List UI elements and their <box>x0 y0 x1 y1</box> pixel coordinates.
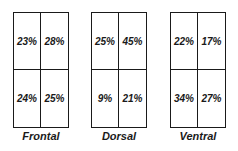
cell-bottom-left: 34% <box>171 70 198 127</box>
panel-frontal: 23% 28% 24% 25% <box>13 12 69 128</box>
cell-top-right: 28% <box>41 13 68 70</box>
cell-top-left: 22% <box>171 13 198 70</box>
panel-label-ventral: Ventral <box>163 130 233 142</box>
cell-top-right: 45% <box>119 13 146 70</box>
cell-top-left: 23% <box>14 13 41 70</box>
cell-bottom-left: 9% <box>92 70 119 127</box>
panel-label-dorsal: Dorsal <box>84 130 154 142</box>
cell-bottom-right: 21% <box>119 70 146 127</box>
panel-ventral: 22% 17% 34% 27% <box>170 12 226 128</box>
cell-bottom-right: 25% <box>41 70 68 127</box>
cell-top-right: 17% <box>198 13 225 70</box>
panel-label-frontal: Frontal <box>6 130 76 142</box>
cell-bottom-right: 27% <box>198 70 225 127</box>
panel-dorsal: 25% 45% 9% 21% <box>91 12 147 128</box>
cell-bottom-left: 24% <box>14 70 41 127</box>
cell-top-left: 25% <box>92 13 119 70</box>
